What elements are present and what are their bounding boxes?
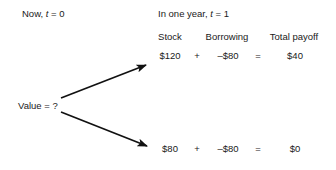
up-branch-borrowing-value: –$80 bbox=[200, 50, 256, 61]
binomial-payoff-diagram: Now, t = 0 In one year, t = 1 Stock Borr… bbox=[0, 0, 336, 170]
down-arrow bbox=[61, 112, 147, 146]
down-branch-stock-value: $80 bbox=[146, 143, 194, 154]
down-branch-row: $80 + –$80 = $0 bbox=[0, 143, 336, 155]
up-branch-stock-value: $120 bbox=[146, 50, 194, 61]
down-branch-borrowing-value: –$80 bbox=[200, 143, 256, 154]
up-branch-total-payoff: $40 bbox=[262, 50, 328, 61]
up-branch-row: $120 + –$80 = $40 bbox=[0, 50, 336, 62]
up-arrow bbox=[61, 65, 146, 98]
root-node-value-label: Value = ? bbox=[18, 100, 58, 111]
down-branch-total-payoff: $0 bbox=[262, 143, 328, 154]
